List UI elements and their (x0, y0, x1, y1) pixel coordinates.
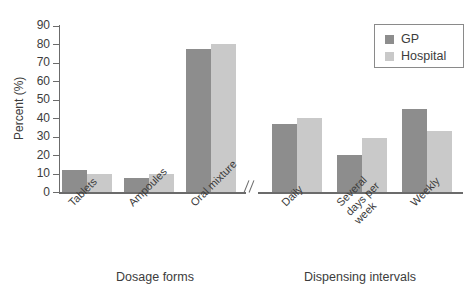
y-tick (53, 118, 59, 119)
y-tick-label: 20 (24, 149, 50, 161)
legend-item-hospital: Hospital (385, 50, 446, 63)
panel-title-dosage-forms: Dosage forms (90, 270, 220, 284)
y-tick-label: 40 (24, 112, 50, 124)
y-tick (53, 26, 59, 27)
axis-break-icon (244, 180, 260, 196)
y-tick (53, 100, 59, 101)
legend-label-gp: GP (401, 33, 419, 46)
y-tick-label: 80 (24, 38, 50, 50)
legend-label-hospital: Hospital (401, 50, 446, 63)
y-tick (53, 137, 59, 138)
panel-title-dispensing-intervals: Dispensing intervals (280, 270, 440, 284)
y-tick-label: 50 (24, 93, 50, 105)
y-tick (53, 63, 59, 64)
legend-swatch-gp-icon (385, 35, 394, 44)
bar-hospital-daily (297, 118, 322, 192)
bar-gp-oral-mixture (186, 49, 211, 192)
legend-swatch-hospital-icon (385, 52, 394, 61)
y-tick (53, 44, 59, 45)
y-axis-line (59, 25, 60, 193)
legend: GP Hospital (374, 24, 464, 68)
y-tick-label: 10 (24, 167, 50, 179)
legend-item-gp: GP (385, 33, 419, 46)
y-tick-label: 90 (24, 19, 50, 31)
bar-gp-weekly (402, 109, 427, 192)
y-tick-label: 60 (24, 75, 50, 87)
y-tick (53, 174, 59, 175)
y-tick (53, 81, 59, 82)
bar-gp-daily (272, 124, 297, 192)
y-tick-label: 70 (24, 56, 50, 68)
y-tick-label: 30 (24, 130, 50, 142)
bar-chart: Percent (%) 90 80 70 60 50 40 30 20 10 0 (0, 0, 471, 299)
y-tick-label: 0 (24, 186, 50, 198)
y-tick (53, 155, 59, 156)
